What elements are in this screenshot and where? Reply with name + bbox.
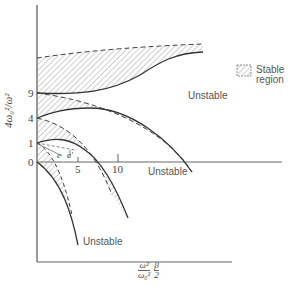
region-label-unstable-right: Unstable [148, 167, 187, 177]
y-tick-4: 4 [28, 113, 34, 124]
x-tick-10: 10 [112, 164, 123, 175]
y-tick-9: 9 [28, 88, 34, 99]
x-label2-num: β [154, 261, 158, 270]
stable-band-top [37, 44, 203, 94]
legend-swatch [237, 65, 251, 76]
y-tick-1: 1 [28, 138, 34, 149]
x-axis-label: ω² ω₀² β 2 [138, 261, 159, 281]
x-tick-5: 5 [75, 164, 81, 175]
legend-label: Stable region [256, 65, 302, 85]
annotation-e: e [57, 150, 61, 160]
y-tick-0: 0 [28, 157, 34, 168]
x-label-num: ω² [140, 261, 149, 270]
stability-diagram [0, 0, 302, 295]
annotation-e-prime: e′ [67, 150, 73, 160]
x-label2-den: 2 [154, 271, 159, 280]
y-axis-label: 4ω₀²/ω² [2, 93, 14, 128]
x-label-den: ω₀² [138, 271, 150, 280]
region-label-unstable-lower: Unstable [83, 237, 122, 247]
region-label-unstable-upper: Unstable [188, 91, 227, 101]
